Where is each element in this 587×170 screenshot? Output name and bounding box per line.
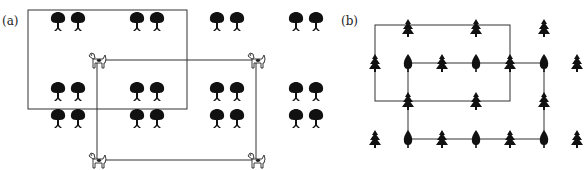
pine-tree-icon [538,19,550,37]
round-tree-icon [230,12,244,31]
pine-tree-icon [571,54,583,72]
round-tree-icon [210,82,224,101]
cypress-tree-icon [404,130,413,148]
round-tree-icon [309,109,323,128]
pine-tree-icon [402,19,414,37]
pine-tree-icon [571,130,583,148]
pine-tree-icon [436,54,448,72]
pine-tree-icon [470,19,482,37]
round-tree-icon [309,82,323,101]
cypress-tree-icon [540,54,549,72]
round-tree-icon [289,12,303,31]
pine-tree-icon [436,130,448,148]
cypress-tree-icon [540,130,549,148]
diagram-canvas [0,0,587,170]
round-tree-icon [71,82,85,101]
round-tree-icon [51,82,65,101]
dog-rectangle [97,60,256,160]
round-tree-icon [51,109,65,128]
cypress-tree-icon [472,54,481,72]
round-tree-icon [51,12,65,31]
round-tree-icon [71,109,85,128]
round-tree-icon [130,109,144,128]
round-tree-icon [150,82,164,101]
pine-tree-icon [470,92,482,110]
round-tree-icon [309,12,323,31]
round-tree-icon [210,109,224,128]
pine-tree-icon [538,92,550,110]
pine-tree-icon [402,92,414,110]
round-tree-icon [289,109,303,128]
round-tree-icon [289,82,303,101]
pine-tree-icon [504,54,516,72]
pine-tree-icon [369,130,381,148]
round-tree-icon [71,12,85,31]
round-tree-icon [150,109,164,128]
round-tree-icon [150,12,164,31]
round-tree-icon [210,12,224,31]
round-tree-icon [130,12,144,31]
round-tree-icon [230,82,244,101]
cypress-tree-icon [472,130,481,148]
round-tree-icon [230,109,244,128]
cypress-tree-icon [404,54,413,72]
pine-tree-icon [369,54,381,72]
pine-tree-icon [504,130,516,148]
round-tree-icon [130,82,144,101]
